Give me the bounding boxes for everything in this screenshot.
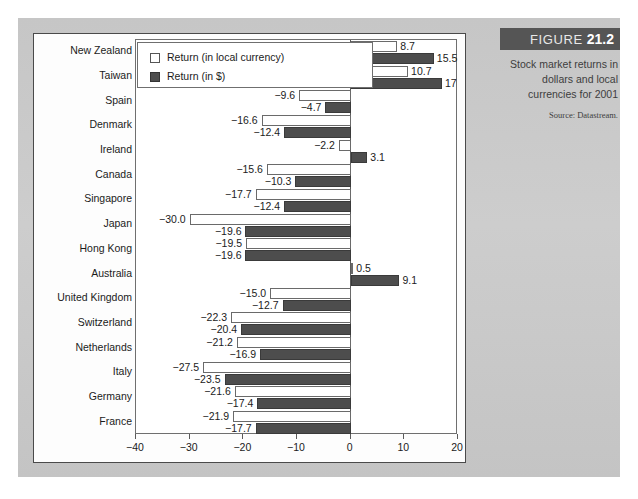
bar-usd [256,423,351,434]
bar-value-label: −15.0 [240,288,267,299]
bar-usd [283,300,351,311]
chart-area: New ZealandTaiwanSpainDenmarkIrelandCana… [34,34,465,462]
bar-value-label: −9.6 [274,90,295,101]
bar-local [235,386,351,397]
bar-usd [325,102,350,113]
figure-number-banner: FIGURE 21.2 [500,28,620,50]
bar-value-label: −15.6 [236,164,263,175]
chart-panel: New ZealandTaiwanSpainDenmarkIrelandCana… [33,33,466,463]
bar-local [267,164,351,175]
bar-usd [245,250,350,261]
category-label: Switzerland [32,317,132,328]
bar-value-label: 17 [445,78,457,89]
bar-value-label: −21.6 [204,386,231,397]
axis-tick-mark [457,434,458,439]
bar-local [339,140,351,151]
bar-usd [257,398,350,409]
legend-item-usd: Return (in $) [150,68,372,85]
figure-page: New ZealandTaiwanSpainDenmarkIrelandCana… [0,0,638,499]
bar-local [190,214,351,225]
x-axis: −40−30−20−1001020 [135,434,457,464]
bar-value-label: −16.9 [229,349,256,360]
bar-value-label: −21.2 [206,337,233,348]
bar-value-label: −19.6 [215,226,242,237]
bar-value-label: 10.7 [411,66,431,77]
axis-tick-label: −20 [233,441,251,453]
legend-item-local: Return (in local currency) [150,49,372,66]
bar-value-label: −17.7 [225,189,252,200]
bar-local [351,263,354,274]
bar-value-label: −19.6 [215,250,242,261]
axis-tick-mark [189,434,190,439]
bar-value-label: −22.3 [200,312,227,323]
category-label: Hong Kong [32,243,132,254]
bar-local [299,90,351,101]
bar-value-label: 0.5 [356,263,371,274]
category-label: Netherlands [32,342,132,353]
axis-tick-label: 10 [397,441,409,453]
bar-usd [260,349,351,360]
axis-tick-label: 20 [451,441,463,453]
category-label: Taiwan [32,70,132,81]
axis-tick-mark [403,434,404,439]
axis-tick-label: −30 [180,441,198,453]
bar-local [256,189,351,200]
figure-caption-block: FIGURE 21.2 Stock market returns in doll… [500,28,620,120]
bar-value-label: 15.5 [437,53,457,64]
category-label: New Zealand [32,45,132,56]
bar-local [270,288,351,299]
bar-value-label: −2.2 [314,140,335,151]
bar-value-label: 8.7 [400,41,415,52]
bar-usd [225,374,351,385]
bar-value-label: 9.1 [403,275,418,286]
chart-legend: Return (in local currency) Return (in $) [137,42,373,88]
category-label: United Kingdom [32,292,132,303]
category-label-column: New ZealandTaiwanSpainDenmarkIrelandCana… [32,34,132,462]
legend-label-local: Return (in local currency) [167,52,284,63]
bar-value-label: −27.5 [173,362,200,373]
bar-value-label: −10.3 [265,176,292,187]
axis-tick-mark [296,434,297,439]
category-label: Singapore [32,193,132,204]
bar-value-label: −12.4 [254,127,281,138]
category-label: Japan [32,218,132,229]
bar-usd [245,226,350,237]
legend-label-usd: Return (in $) [167,71,225,82]
bar-value-label: −19.5 [215,238,242,249]
bar-local [231,312,351,323]
bar-value-label: 3.1 [370,152,385,163]
bar-value-label: −4.7 [301,102,322,113]
bar-usd [295,176,350,187]
bar-value-label: −20.4 [211,324,238,335]
bar-usd [241,324,350,335]
bar-local [262,115,351,126]
bar-value-label: −21.9 [203,411,230,422]
bar-local [237,337,351,348]
figure-word-label: FIGURE [530,32,583,47]
bar-usd [351,275,400,286]
axis-tick-mark [242,434,243,439]
axis-tick-mark [135,434,136,439]
bar-value-label: −30.0 [159,214,186,225]
white-square-icon [150,53,160,63]
axis-tick-label: 0 [347,441,353,453]
bar-local [246,238,351,249]
category-label: France [32,416,132,427]
figure-caption-text: Stock market returns in dollars and loca… [500,57,620,103]
bar-value-label: −12.4 [254,201,281,212]
figure-number: 21.2 [587,31,614,47]
axis-tick-label: −10 [287,441,305,453]
plot-box: 8.715.510.717−9.6−4.7−16.6−12.4−2.23.1−1… [135,39,457,434]
category-label: Italy [32,366,132,377]
bar-usd [284,201,351,212]
category-label: Australia [32,268,132,279]
category-label: Ireland [32,144,132,155]
bar-usd [351,152,368,163]
bar-value-label: −12.7 [252,300,279,311]
bar-value-label: −16.6 [231,115,258,126]
figure-source-text: Source: Datastream. [500,110,620,120]
category-label: Denmark [32,119,132,130]
bar-local [233,411,351,422]
axis-tick-label: −40 [126,441,144,453]
dark-square-icon [150,72,160,82]
